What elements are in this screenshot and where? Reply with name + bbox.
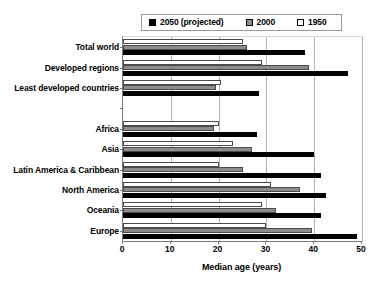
bar-2000 <box>123 167 243 172</box>
legend-entry-2000: 2000 <box>246 18 276 27</box>
bar-2000 <box>123 187 300 192</box>
x-tick-label: 40 <box>308 244 317 254</box>
x-tick-label: 0 <box>120 244 125 254</box>
bar-1950 <box>123 80 221 85</box>
category-label: Least developed countries <box>14 83 119 93</box>
legend-entry-1950: 1950 <box>297 18 327 27</box>
bar-2050 <box>123 193 326 198</box>
legend-label-2050: 2050 (projected) <box>160 18 224 27</box>
median-age-bar-chart: 2050 (projected) 2000 1950 Total worldDe… <box>0 0 391 287</box>
legend-swatch-1950 <box>297 19 304 26</box>
x-axis-title: Median age (years) <box>122 262 361 272</box>
x-tick-label: 10 <box>165 244 174 254</box>
bar-2050 <box>123 50 305 55</box>
category-row: Least developed countries <box>123 78 362 98</box>
bar-2000 <box>123 147 252 152</box>
category-row: Latin America & Caribbean <box>123 159 362 179</box>
bar-1950 <box>123 223 266 228</box>
x-tick-label: 30 <box>261 244 270 254</box>
bar-1950 <box>123 121 219 126</box>
bar-2050 <box>123 234 357 239</box>
category-label: Total world <box>75 42 119 52</box>
bar-2050 <box>123 132 257 137</box>
bar-1950 <box>123 39 243 44</box>
legend-label-2000: 2000 <box>257 18 276 27</box>
bar-2050 <box>123 71 348 76</box>
legend-swatch-2000 <box>246 19 253 26</box>
bar-2000 <box>123 208 276 213</box>
bar-2000 <box>123 126 214 131</box>
category-row: Asia <box>123 139 362 159</box>
x-tick-label: 50 <box>356 244 365 254</box>
category-row: Europe <box>123 221 362 241</box>
category-row: Developed regions <box>123 57 362 77</box>
bar-1950 <box>123 60 262 65</box>
category-row: Oceania <box>123 200 362 220</box>
category-row: North America <box>123 180 362 200</box>
gridline <box>362 37 363 241</box>
x-axis-ticks: 01020304050 <box>122 241 361 255</box>
bar-2000 <box>123 65 309 70</box>
plot-area: Total worldDeveloped regionsLeast develo… <box>122 36 363 242</box>
category-label: Asia <box>101 144 119 154</box>
bar-1950 <box>123 202 262 207</box>
legend-label-1950: 1950 <box>308 18 327 27</box>
chart-legend: 2050 (projected) 2000 1950 <box>141 14 342 31</box>
category-label: Europe <box>90 226 119 236</box>
category-label: Developed regions <box>45 63 119 73</box>
category-row-spacer <box>123 98 362 118</box>
bar-1950 <box>123 141 233 146</box>
bar-2000 <box>123 228 312 233</box>
bar-2000 <box>123 85 216 90</box>
category-row: Total world <box>123 37 362 57</box>
category-label: North America <box>62 185 119 195</box>
bar-2050 <box>123 173 321 178</box>
y-axis-tick <box>120 108 123 109</box>
bar-2050 <box>123 213 321 218</box>
category-row: Africa <box>123 119 362 139</box>
category-label: Latin America & Caribbean <box>13 165 119 175</box>
bar-2050 <box>123 152 314 157</box>
x-tick-label: 20 <box>213 244 222 254</box>
bar-1950 <box>123 182 271 187</box>
legend-swatch-2050 <box>149 19 156 26</box>
legend-entry-2050: 2050 (projected) <box>149 18 224 27</box>
category-label: Africa <box>96 124 120 134</box>
bar-1950 <box>123 162 219 167</box>
category-label: Oceania <box>87 205 119 215</box>
bar-2000 <box>123 45 247 50</box>
bar-2050 <box>123 91 259 96</box>
